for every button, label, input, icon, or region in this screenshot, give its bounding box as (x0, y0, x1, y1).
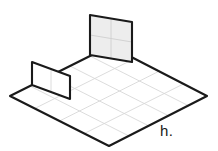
back-wall-panel (90, 15, 132, 62)
isometric-diagram-svg (0, 0, 218, 151)
isometric-figure: h. (0, 0, 218, 151)
figure-label: h. (160, 122, 173, 139)
